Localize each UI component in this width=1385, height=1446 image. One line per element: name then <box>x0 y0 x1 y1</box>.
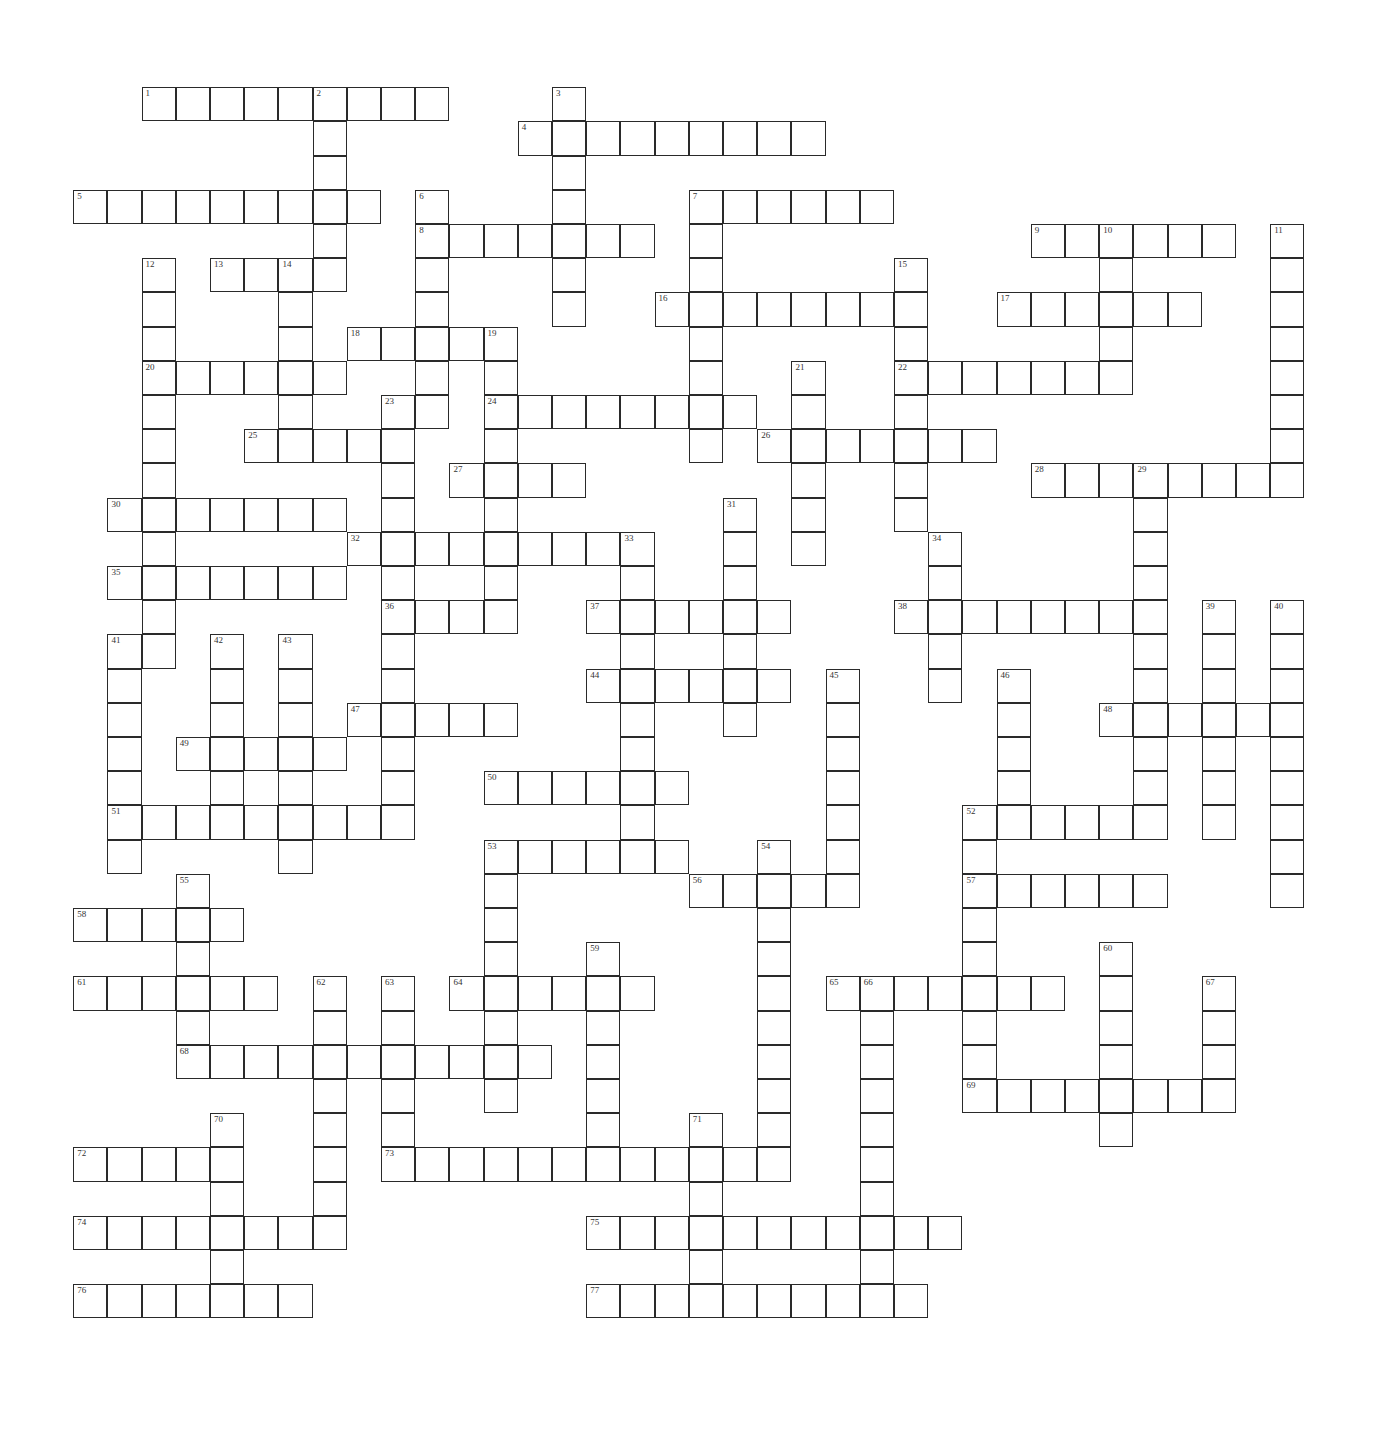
crossword-cell[interactable] <box>244 258 278 292</box>
crossword-cell[interactable] <box>757 1011 791 1045</box>
crossword-cell[interactable] <box>689 1216 723 1250</box>
crossword-cell[interactable] <box>415 327 449 361</box>
crossword-cell[interactable] <box>1270 292 1304 326</box>
crossword-cell[interactable] <box>313 1113 347 1147</box>
crossword-cell[interactable]: 34 <box>928 532 962 566</box>
crossword-cell[interactable] <box>347 190 381 224</box>
crossword-cell[interactable]: 77 <box>586 1284 620 1318</box>
crossword-cell[interactable] <box>962 942 996 976</box>
crossword-cell[interactable] <box>894 498 928 532</box>
crossword-cell[interactable]: 10 <box>1099 224 1133 258</box>
crossword-cell[interactable] <box>620 805 654 839</box>
crossword-cell[interactable] <box>415 703 449 737</box>
crossword-cell[interactable] <box>1031 874 1065 908</box>
crossword-cell[interactable] <box>586 532 620 566</box>
crossword-cell[interactable] <box>449 532 483 566</box>
crossword-cell[interactable] <box>1031 292 1065 326</box>
crossword-cell[interactable] <box>381 1045 415 1079</box>
crossword-cell[interactable]: 36 <box>381 600 415 634</box>
crossword-cell[interactable] <box>894 327 928 361</box>
crossword-cell[interactable] <box>723 1284 757 1318</box>
crossword-cell[interactable] <box>518 1045 552 1079</box>
crossword-cell[interactable] <box>142 190 176 224</box>
crossword-cell[interactable] <box>449 1147 483 1181</box>
crossword-cell[interactable]: 13 <box>210 258 244 292</box>
crossword-cell[interactable] <box>1133 874 1167 908</box>
crossword-cell[interactable] <box>415 600 449 634</box>
crossword-cell[interactable] <box>313 737 347 771</box>
crossword-cell[interactable] <box>1202 669 1236 703</box>
crossword-cell[interactable] <box>381 634 415 668</box>
crossword-cell[interactable] <box>689 121 723 155</box>
crossword-cell[interactable] <box>655 1284 689 1318</box>
crossword-cell[interactable] <box>791 395 825 429</box>
crossword-cell[interactable] <box>278 498 312 532</box>
crossword-cell[interactable] <box>860 1284 894 1318</box>
crossword-cell[interactable] <box>381 498 415 532</box>
crossword-cell[interactable] <box>278 771 312 805</box>
crossword-cell[interactable]: 40 <box>1270 600 1304 634</box>
crossword-cell[interactable] <box>620 737 654 771</box>
crossword-cell[interactable] <box>381 737 415 771</box>
crossword-cell[interactable] <box>1065 463 1099 497</box>
crossword-cell[interactable] <box>860 1079 894 1113</box>
crossword-cell[interactable] <box>107 1147 141 1181</box>
crossword-cell[interactable] <box>278 190 312 224</box>
crossword-cell[interactable] <box>518 771 552 805</box>
crossword-cell[interactable]: 58 <box>73 908 107 942</box>
crossword-cell[interactable]: 60 <box>1099 942 1133 976</box>
crossword-cell[interactable] <box>107 908 141 942</box>
crossword-cell[interactable] <box>826 190 860 224</box>
crossword-cell[interactable] <box>210 908 244 942</box>
crossword-cell[interactable] <box>313 224 347 258</box>
crossword-cell[interactable]: 55 <box>176 874 210 908</box>
crossword-cell[interactable] <box>176 1216 210 1250</box>
crossword-cell[interactable] <box>210 498 244 532</box>
crossword-cell[interactable] <box>620 840 654 874</box>
crossword-cell[interactable] <box>176 976 210 1010</box>
crossword-cell[interactable]: 24 <box>484 395 518 429</box>
crossword-cell[interactable]: 59 <box>586 942 620 976</box>
crossword-cell[interactable] <box>689 1250 723 1284</box>
crossword-cell[interactable] <box>757 121 791 155</box>
crossword-cell[interactable] <box>1099 327 1133 361</box>
crossword-cell[interactable] <box>928 634 962 668</box>
crossword-cell[interactable] <box>176 190 210 224</box>
crossword-cell[interactable] <box>1099 1011 1133 1045</box>
crossword-cell[interactable] <box>142 429 176 463</box>
crossword-cell[interactable] <box>826 429 860 463</box>
crossword-cell[interactable] <box>107 840 141 874</box>
crossword-cell[interactable] <box>552 532 586 566</box>
crossword-cell[interactable] <box>586 1147 620 1181</box>
crossword-cell[interactable] <box>484 532 518 566</box>
crossword-cell[interactable] <box>210 361 244 395</box>
crossword-cell[interactable] <box>449 327 483 361</box>
crossword-cell[interactable] <box>313 121 347 155</box>
crossword-cell[interactable] <box>757 1045 791 1079</box>
crossword-cell[interactable] <box>1133 805 1167 839</box>
crossword-cell[interactable]: 50 <box>484 771 518 805</box>
crossword-cell[interactable] <box>313 1011 347 1045</box>
crossword-cell[interactable] <box>1031 600 1065 634</box>
crossword-cell[interactable] <box>484 976 518 1010</box>
crossword-cell[interactable] <box>244 805 278 839</box>
crossword-cell[interactable] <box>210 1182 244 1216</box>
crossword-cell[interactable] <box>1270 805 1304 839</box>
crossword-cell[interactable] <box>997 361 1031 395</box>
crossword-cell[interactable]: 76 <box>73 1284 107 1318</box>
crossword-cell[interactable] <box>860 190 894 224</box>
crossword-cell[interactable]: 20 <box>142 361 176 395</box>
crossword-cell[interactable] <box>347 1045 381 1079</box>
crossword-cell[interactable]: 38 <box>894 600 928 634</box>
crossword-cell[interactable] <box>210 805 244 839</box>
crossword-cell[interactable] <box>1031 361 1065 395</box>
crossword-cell[interactable]: 25 <box>244 429 278 463</box>
crossword-cell[interactable] <box>244 566 278 600</box>
crossword-cell[interactable] <box>1202 1011 1236 1045</box>
crossword-cell[interactable]: 3 <box>552 87 586 121</box>
crossword-cell[interactable] <box>415 87 449 121</box>
crossword-cell[interactable] <box>1168 292 1202 326</box>
crossword-cell[interactable] <box>244 87 278 121</box>
crossword-cell[interactable] <box>1099 600 1133 634</box>
crossword-cell[interactable] <box>210 1147 244 1181</box>
